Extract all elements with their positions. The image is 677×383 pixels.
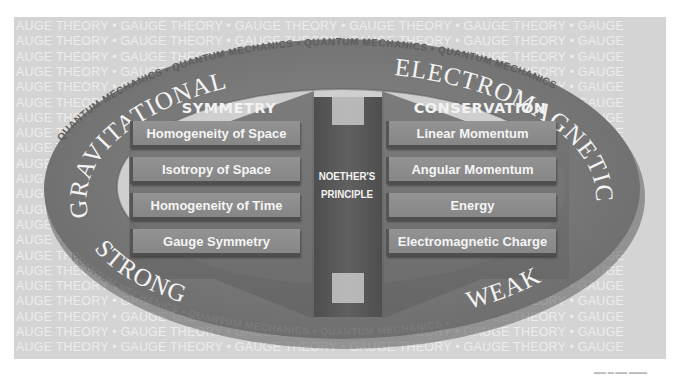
- conservation-item: Energy: [386, 193, 556, 220]
- symmetry-heading: SYMMETRY: [154, 100, 304, 116]
- symmetry-item: Gauge Symmetry: [130, 229, 300, 256]
- figure-caption-blurred: ▬▬ ▬ ▬▬ ▬▬▬: [594, 369, 647, 375]
- noether-line-2: PRINCIPLE: [317, 185, 377, 203]
- symmetry-item: Homogeneity of Space: [130, 121, 300, 148]
- conservation-item: Electromagnetic Charge: [386, 229, 556, 256]
- conservation-item: Angular Momentum: [386, 157, 556, 184]
- conservation-heading: CONSERVATION: [400, 100, 560, 116]
- symmetry-item: Homogeneity of Time: [130, 193, 300, 220]
- symmetry-item: Isotropy of Space: [130, 157, 300, 184]
- noether-line-1: NOETHER'S: [317, 167, 377, 185]
- conservation-item: Linear Momentum: [386, 121, 556, 148]
- noethers-principle-label: NOETHER'S PRINCIPLE: [317, 167, 377, 203]
- figure: AUGE THEORY • GAUGE THEORY • GAUGE THEOR…: [14, 17, 666, 359]
